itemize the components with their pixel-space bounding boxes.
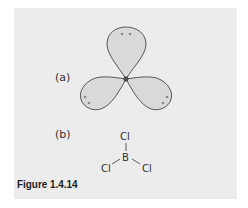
orbital-lobe-left — [80, 77, 126, 110]
atom-b-center: B — [122, 152, 129, 163]
boron-nucleus — [124, 77, 128, 81]
orbital-lobe-right — [126, 77, 172, 110]
atom-cl-right: Cl — [142, 163, 152, 174]
orbital-diagram: Cl B Cl Cl — [0, 0, 248, 208]
atom-cl-left: Cl — [101, 163, 111, 174]
bcl3-structure: Cl B Cl Cl — [101, 131, 152, 174]
orbital-lobe-top — [107, 27, 146, 79]
figure-caption: Figure 1.4.14 — [17, 178, 78, 190]
atom-cl-top: Cl — [120, 131, 130, 142]
sp2-orbitals — [80, 27, 171, 110]
